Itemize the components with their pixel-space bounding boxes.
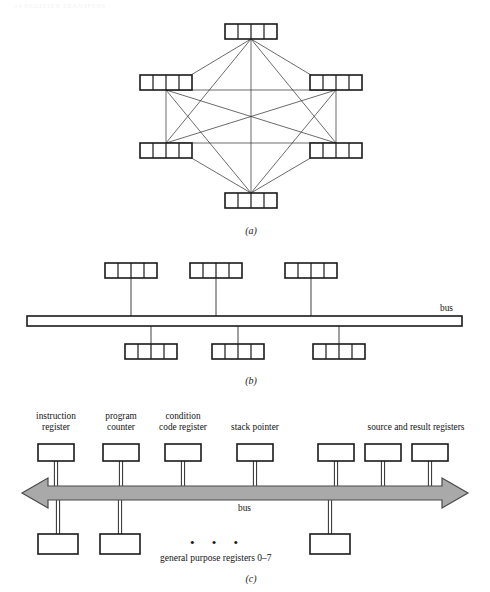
label-line-1: condition — [143, 411, 223, 422]
program-counter — [103, 444, 139, 461]
caption-b: (b) — [231, 375, 271, 386]
source-register-1 — [318, 444, 354, 461]
interconnect-line — [166, 90, 251, 193]
label-source-and-result-registers: source and result registers — [343, 422, 489, 433]
label-line-1: stack pointer — [215, 422, 295, 433]
interconnect-line — [251, 39, 336, 143]
gp-register-1 — [100, 534, 140, 554]
source-register-2 — [365, 444, 401, 461]
bus-bar-b — [27, 316, 462, 326]
interconnect-line — [251, 90, 336, 193]
figure-a-group — [140, 24, 362, 208]
bus-label-c: bus — [238, 503, 251, 513]
label-condition-code-register: condition code register — [143, 411, 223, 433]
caption-c: (c) — [231, 573, 271, 584]
label-line-2: code register — [143, 422, 223, 433]
instruction-register — [38, 444, 74, 461]
caption-a: (a) — [231, 225, 271, 236]
stack-pointer — [237, 444, 273, 461]
result-register — [412, 444, 448, 461]
label-general-purpose-registers: general purpose registers 0–7 — [160, 553, 272, 563]
condition-code-register — [165, 444, 201, 461]
interconnect-line — [166, 39, 251, 143]
figure-b-group — [27, 263, 462, 359]
gp-register-0 — [38, 534, 78, 554]
ellipsis-dots: • • • — [190, 535, 245, 551]
bus-label-b: bus — [440, 303, 453, 313]
label-stack-pointer: stack pointer — [215, 422, 295, 433]
figure-page: 24 REGISTER TRANSFERS (a) bus (b) instru… — [0, 0, 490, 592]
gp-register-7 — [310, 534, 350, 554]
